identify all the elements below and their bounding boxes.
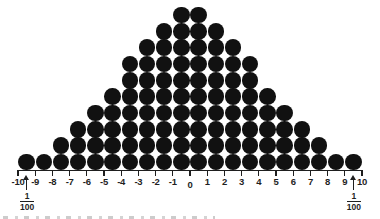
up-arrow-shaft — [353, 179, 355, 190]
annotations-layer: 11001100 — [0, 0, 380, 219]
fraction-numerator: 1 — [17, 192, 37, 200]
dot-histogram-figure: -10-9-8-7-6-5-4-3-2-1012345678910 110011… — [0, 0, 380, 219]
probability-fraction: 1100 — [17, 192, 37, 211]
clipped-caption-remnant — [3, 216, 215, 219]
fraction-denominator: 100 — [17, 203, 37, 211]
up-arrow-shaft — [26, 179, 28, 190]
probability-fraction: 1100 — [344, 192, 364, 211]
fraction-numerator: 1 — [344, 192, 364, 200]
fraction-denominator: 100 — [344, 203, 364, 211]
